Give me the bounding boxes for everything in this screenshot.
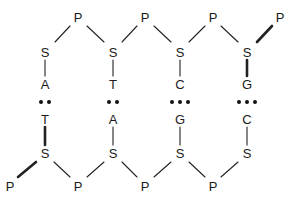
h-bond-pair-2 xyxy=(107,100,119,104)
base-label: T xyxy=(41,112,49,127)
sugar-label: S xyxy=(41,146,50,161)
hydrogen-bonds xyxy=(39,100,257,104)
base-label: A xyxy=(41,77,50,92)
bottom-phosphates: P P P P xyxy=(6,179,218,194)
sugar-label: S xyxy=(41,45,50,60)
phosphate-label: P xyxy=(141,10,150,25)
top-bases: A T C G xyxy=(41,77,252,92)
top-sugars: S S S S xyxy=(41,45,252,60)
bond-s2b-p3b xyxy=(122,162,137,177)
base-label: T xyxy=(109,77,117,92)
phosphate-label: P xyxy=(276,10,285,25)
bond-s3b-p4b xyxy=(189,162,205,177)
phosphate-label: P xyxy=(74,179,83,194)
top-sugar-base-bonds xyxy=(45,60,247,76)
bond-p3-s4 xyxy=(221,26,238,42)
bottom-backbone-bonds xyxy=(18,162,238,177)
bond-p1b-s1b xyxy=(18,162,36,177)
h-bond-pair-4 xyxy=(237,100,257,104)
top-backbone-bonds xyxy=(55,26,272,42)
phosphate-label: P xyxy=(6,179,15,194)
bond-p1-s2 xyxy=(87,26,104,42)
phosphate-label: P xyxy=(209,179,218,194)
sugar-label: S xyxy=(243,146,252,161)
phosphate-label: P xyxy=(141,179,150,194)
bottom-sugar-base-bonds xyxy=(45,127,247,145)
sugar-label: S xyxy=(243,45,252,60)
top-phosphates: P P P P xyxy=(74,10,285,25)
bond-p3b-s3b xyxy=(154,162,171,177)
dna-double-strand-diagram: P P P P S S S S A T C G T A G C S S S S … xyxy=(0,0,297,203)
bond-p4b-s4b xyxy=(221,162,238,177)
phosphate-label: P xyxy=(74,10,83,25)
base-label: A xyxy=(109,112,118,127)
base-label: C xyxy=(175,77,184,92)
bottom-bases: T A G C xyxy=(41,112,252,127)
sugar-label: S xyxy=(176,45,185,60)
sugar-label: S xyxy=(176,146,185,161)
bond-s1b-p2b xyxy=(54,162,70,177)
h-bond-pair-1 xyxy=(39,100,51,104)
bottom-sugars: S S S S xyxy=(41,146,252,161)
base-label: G xyxy=(175,112,185,127)
sugar-label: S xyxy=(109,45,118,60)
base-label: G xyxy=(242,77,252,92)
base-label: C xyxy=(242,112,251,127)
bond-p2-s3 xyxy=(154,26,171,42)
phosphate-label: P xyxy=(209,10,218,25)
bond-s4-p4 xyxy=(257,26,272,42)
sugar-label: S xyxy=(109,146,118,161)
bond-s1-p1 xyxy=(55,26,70,42)
h-bond-pair-3 xyxy=(170,100,190,104)
bond-s3-p3 xyxy=(189,26,205,42)
bond-p2b-s2b xyxy=(87,162,104,177)
bond-s2-p2 xyxy=(122,26,137,42)
